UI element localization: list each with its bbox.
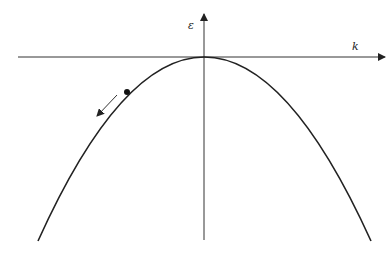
state-dot [124, 89, 130, 95]
epsilon-axis-label: ε [188, 19, 194, 32]
dispersion-diagram [0, 0, 392, 258]
motion-arrow [97, 95, 117, 116]
k-axis-label: k [352, 40, 359, 53]
